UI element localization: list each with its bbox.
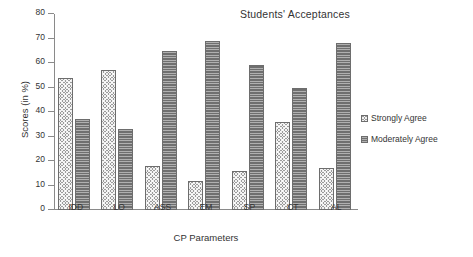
legend-item-label: Strongly Agree [371, 113, 427, 123]
moderately-agree-swatch [361, 136, 368, 143]
bar-group [141, 14, 184, 210]
bar-ass-moderately-agree [162, 51, 177, 210]
y-axis-tick-label: 50 [25, 81, 45, 91]
x-axis-tick-label-idd: IDD [54, 202, 98, 212]
bar-lo-strongly-agree [101, 70, 116, 210]
bar-idd-strongly-agree [58, 78, 73, 210]
bar-lo-moderately-agree [118, 129, 133, 210]
y-axis-tick-label: 60 [25, 56, 45, 66]
x-axis-tick-label-ct: CT [271, 202, 315, 212]
bar-sp-moderately-agree [249, 65, 264, 210]
legend-item-label: Moderately Agree [371, 134, 438, 144]
bar-group [315, 14, 358, 210]
bar-chart: Students' Acceptances Scores (in %) 0102… [0, 0, 473, 257]
bar-al-moderately-agree [336, 43, 351, 210]
bar-group [184, 14, 227, 210]
bar-ct-strongly-agree [275, 122, 290, 210]
bar-idd-moderately-agree [75, 119, 90, 210]
plot-area: 01020304050607080 [54, 14, 358, 210]
y-axis-tick-label: 30 [25, 130, 45, 140]
x-axis-tick-label-em: EM [184, 202, 228, 212]
bar-group [97, 14, 140, 210]
chart-legend: Strongly AgreeModerately Agree [361, 113, 473, 155]
x-axis-tick-label-lo: LO [97, 202, 141, 212]
y-axis-tick-label: 0 [25, 203, 45, 213]
y-axis-tick-label: 80 [25, 7, 45, 17]
x-axis-tick-label-sp: SP [227, 202, 271, 212]
y-axis-tick-label: 40 [25, 105, 45, 115]
bar-group [54, 14, 97, 210]
legend-item-moderately-agree: Moderately Agree [361, 134, 473, 144]
x-axis-tick-label-al: AL [314, 202, 358, 212]
y-axis-tick-label: 10 [25, 179, 45, 189]
x-axis-title: CP Parameters [54, 232, 358, 243]
bar-ct-moderately-agree [292, 88, 307, 211]
strongly-agree-swatch [361, 115, 368, 122]
legend-item-strongly-agree: Strongly Agree [361, 113, 473, 123]
bar-em-moderately-agree [205, 41, 220, 210]
bar-group [228, 14, 271, 210]
bar-group [271, 14, 314, 210]
y-axis-tick-label: 20 [25, 154, 45, 164]
y-axis-tick-label: 70 [25, 32, 45, 42]
x-axis-tick-label-ass: ASS [141, 202, 185, 212]
